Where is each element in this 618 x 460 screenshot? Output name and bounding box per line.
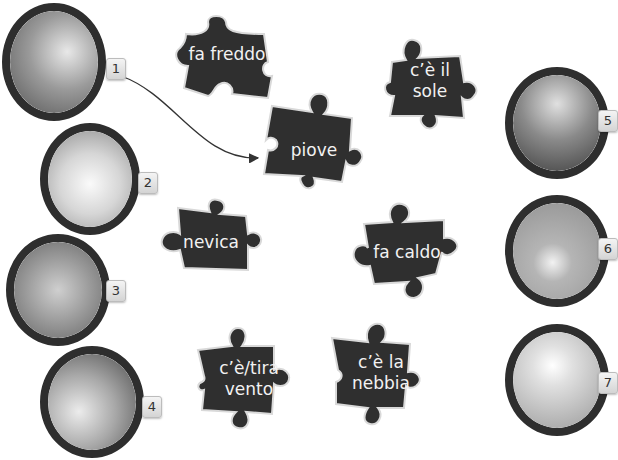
photo-2 [40,123,140,235]
photo-3 [6,234,110,346]
photo-number-badge: 2 [138,172,158,194]
sunshine-image [513,332,601,428]
puzzle-piece-fa-caldo[interactable]: fa caldo [348,202,466,312]
photo-number-badge: 3 [106,280,126,302]
photo-number-badge: 4 [142,396,162,418]
puzzle-piece-ce-tira-vento[interactable]: c’è/tira vento [196,326,302,438]
hot-woman-image [14,242,102,338]
puzzle-piece-fa-freddo[interactable]: fa freddo [172,14,282,98]
photo-number-badge: 7 [598,372,618,394]
photo-5 [505,67,609,179]
piece-label: c’è/tira vento [196,358,302,400]
snowy-road-image [48,131,132,227]
piece-label: c’è il sole [380,60,480,102]
photo-number-badge: 6 [598,238,618,260]
cold-man-image [48,354,136,450]
puzzle-piece-ce-la-nebbia[interactable]: c’è la nebbia [328,322,434,438]
piece-label: piove [262,140,366,161]
piece-label: fa caldo [348,242,466,263]
puzzle-piece-nevica[interactable]: nevica [156,198,266,272]
puzzle-piece-piove[interactable]: piove [262,92,366,190]
fog-road-image [513,203,601,299]
piece-label: fa freddo [172,44,282,65]
piece-label: nevica [156,232,266,253]
photo-number-badge: 1 [106,58,126,80]
photo-7 [505,324,609,436]
photo-4 [40,346,144,458]
puzzle-piece-ce-il-sole[interactable]: c’è il sole [380,36,480,130]
photo-number-badge: 5 [598,110,618,132]
piece-label: c’è la nebbia [328,352,434,394]
photo-1 [2,3,106,121]
wind-wheat-image [513,75,601,171]
photo-6 [505,195,609,307]
rain-umbrella-image [10,11,98,113]
